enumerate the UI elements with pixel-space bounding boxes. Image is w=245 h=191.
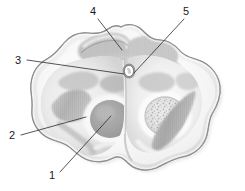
figure-container: 1 2 3 4 5 — [0, 0, 245, 191]
label-4: 4 — [90, 5, 96, 17]
label-2: 2 — [9, 129, 15, 141]
left-nucleus-core — [95, 105, 115, 121]
label-3: 3 — [15, 54, 21, 66]
label-5: 5 — [183, 5, 189, 17]
cross-section-illustration: 1 2 3 4 5 — [0, 0, 245, 191]
label-1: 1 — [49, 169, 55, 181]
